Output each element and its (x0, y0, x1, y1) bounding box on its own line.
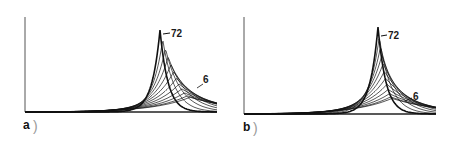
curve (244, 64, 436, 114)
leader-line-72 (381, 35, 387, 36)
annotation-6: 6 (203, 74, 209, 85)
panel-b: 72 6 b ) (243, 17, 436, 136)
panel-paren: ) (33, 118, 38, 134)
curve (25, 65, 217, 112)
panel-label-a: a (23, 118, 30, 132)
annotation-6: 6 (413, 91, 419, 102)
annotation-72: 72 (388, 30, 400, 41)
curve (25, 30, 217, 112)
leader-line-72 (163, 33, 170, 34)
panel-paren: ) (253, 120, 258, 136)
figure: 72 6 a ) 72 6 b ) (0, 0, 464, 141)
curve (244, 56, 436, 114)
curve (244, 49, 436, 114)
curve-family (244, 27, 436, 114)
annotation-72: 72 (171, 28, 183, 39)
curve (25, 79, 217, 112)
panel-label-b: b (243, 120, 250, 134)
curve (25, 41, 217, 112)
curve-family (25, 30, 217, 112)
curve (25, 51, 217, 112)
panel-a: 72 6 a ) (23, 17, 217, 134)
curve (244, 72, 436, 114)
